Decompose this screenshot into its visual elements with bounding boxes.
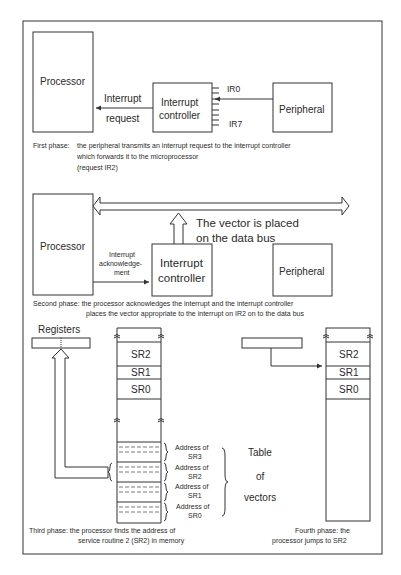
register-box-4 — [242, 338, 302, 348]
processor-label-2: Processor — [40, 241, 86, 252]
peripheral-label: Peripheral — [279, 104, 325, 115]
ir0-label: IR0 — [227, 84, 241, 94]
table-brace — [222, 448, 228, 516]
phase3-caption-1: Third phase: the processor finds the add… — [29, 527, 175, 535]
phase2-caption-1: Second phase: the processor acknowledges… — [33, 300, 294, 308]
interrupt-diagram: Processor Interrupt controller IR0 IR7 P… — [0, 0, 401, 575]
phase1-caption-head: First phase: — [33, 142, 70, 150]
processor-label: Processor — [40, 76, 86, 87]
phase1-caption-3: (request IR2) — [77, 164, 118, 172]
memory-column-3: SR2 SR1 SR0 — [114, 328, 164, 523]
mem4-sr1: SR1 — [339, 367, 359, 378]
registers-label: Registers — [38, 324, 80, 335]
vector-fetch-arrow — [52, 349, 108, 478]
jump-arrow — [271, 348, 322, 366]
phase2-caption-2: places the vector appropriate to the int… — [86, 310, 304, 318]
ir7-label: IR7 — [229, 119, 243, 129]
svg-text:SR0: SR0 — [188, 512, 202, 519]
phase2: Processor The vector is placed on the da… — [33, 194, 349, 318]
svg-text:Address of: Address of — [175, 444, 209, 451]
svg-text:SR3: SR3 — [188, 453, 202, 460]
memory-column-4: SR2 SR1 SR0 — [323, 328, 373, 521]
ack-label-1: Interrupt — [109, 251, 135, 259]
phase1-caption-2: which forwards it to the microprocessor — [76, 153, 199, 161]
controller2-label-1: Interrupt — [160, 257, 204, 269]
phase4-caption-1: Fourth phase: the — [295, 527, 350, 535]
controller-label-1: Interrupt — [161, 97, 198, 108]
phase1: Processor Interrupt controller IR0 IR7 P… — [33, 32, 332, 172]
phase4: SR2 SR1 SR0 Fourth phase: the processor … — [242, 328, 373, 545]
controller-label-2: controller — [159, 110, 201, 121]
svg-text:Address of: Address of — [176, 503, 210, 510]
table-label-3: vectors — [244, 492, 276, 503]
phase3: Registers SR2 SR1 SR0 — [29, 324, 276, 545]
mem4-sr2: SR2 — [339, 349, 359, 360]
vector-entries: Address of SR3 Address of SR2 Address of… — [175, 444, 210, 519]
bus-note-2: on the data bus — [196, 232, 276, 244]
controller2-label-2: controller — [158, 272, 205, 284]
phase1-caption-1: the peripheral transmits an interrupt re… — [77, 142, 291, 150]
vector-up-arrow — [170, 213, 187, 244]
interrupt-request-label-2: request — [106, 113, 140, 124]
table-label-1: Table — [248, 447, 272, 458]
ack-label-3: ment — [114, 269, 130, 276]
svg-text:Address of: Address of — [175, 483, 209, 490]
svg-text:SR1: SR1 — [188, 492, 202, 499]
mem3-sr2: SR2 — [131, 349, 151, 360]
data-bus-arrow — [93, 197, 349, 215]
ack-label-2: acknowledge- — [99, 260, 143, 268]
svg-text:Address of: Address of — [175, 464, 209, 471]
bus-note-1: The vector is placed — [196, 217, 299, 229]
phase3-caption-2: service routine 2 (SR2) in memory — [78, 537, 185, 545]
mem3-sr1: SR1 — [131, 367, 151, 378]
interrupt-request-label-1: Interrupt — [104, 93, 141, 104]
mem3-sr0: SR0 — [131, 384, 151, 395]
peripheral-label-2: Peripheral — [279, 266, 325, 277]
table-label-2: of — [256, 471, 265, 482]
ir-lines — [212, 88, 219, 125]
svg-text:SR2: SR2 — [188, 473, 202, 480]
phase4-caption-2: processor jumps to SR2 — [272, 537, 347, 545]
mem4-sr0: SR0 — [339, 384, 359, 395]
interrupt-controller-box-2 — [152, 244, 212, 296]
